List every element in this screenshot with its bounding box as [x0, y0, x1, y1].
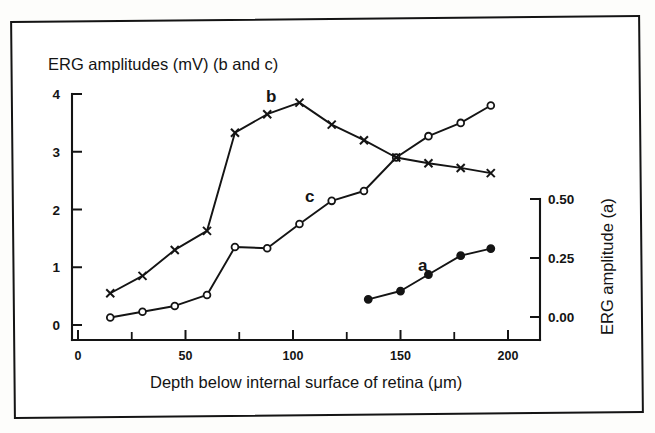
left-tick-label: 3	[52, 145, 60, 160]
data-point-c	[296, 221, 303, 228]
bottom-tick-label: 150	[390, 349, 411, 363]
data-point-b	[139, 272, 147, 280]
data-point-c	[264, 245, 271, 252]
right-axis-title: ERG amplitude (a)	[598, 198, 616, 335]
data-point-b	[106, 289, 114, 297]
data-point-c	[487, 102, 494, 109]
data-point-b	[171, 246, 179, 254]
chart-svg: ERG amplitudes (mV) (b and c) 01234 0.00…	[0, 0, 655, 433]
left-tick-label: 2	[52, 203, 60, 218]
series-line-b	[110, 103, 491, 294]
chart-plot-area: ERG amplitudes (mV) (b and c) 01234 0.00…	[0, 0, 655, 433]
data-point-c	[139, 308, 146, 315]
data-point-a	[397, 287, 404, 294]
data-point-c	[361, 188, 368, 195]
bottom-tick-label: 0	[75, 349, 82, 363]
bottom-tick-label: 50	[179, 349, 193, 363]
data-point-c	[425, 133, 432, 140]
data-point-b	[328, 121, 336, 129]
data-point-c	[107, 314, 114, 321]
left-tick-label: 4	[52, 87, 60, 102]
data-point-b	[360, 136, 368, 144]
x-axis-title: Depth below internal surface of retina (…	[150, 373, 462, 391]
left-tick-label: 1	[52, 260, 60, 275]
right-tick-label: 0.00	[548, 310, 574, 325]
left-axis-ticks: 01234	[52, 87, 82, 333]
right-tick-label: 0.50	[548, 192, 574, 207]
series-c	[107, 102, 494, 321]
data-point-c	[171, 303, 178, 310]
bottom-axis-ticks: 050100150200	[75, 330, 519, 363]
data-point-c	[204, 292, 211, 299]
right-axis-ticks: 0.000.250.50	[530, 192, 575, 325]
data-point-c	[328, 197, 335, 204]
data-point-a	[457, 252, 464, 259]
data-point-c	[232, 244, 239, 251]
data-point-a	[487, 245, 494, 252]
curve-label-b: b	[266, 87, 276, 106]
series-b	[106, 99, 495, 298]
left-axis-title: ERG amplitudes (mV) (b and c)	[48, 55, 278, 73]
data-point-c	[457, 119, 464, 126]
left-tick-label: 0	[52, 318, 60, 333]
series-line-c	[110, 106, 491, 318]
bottom-tick-label: 200	[498, 349, 519, 363]
curve-label-a: a	[418, 256, 428, 275]
figure-root: ERG amplitudes (mV) (b and c) 01234 0.00…	[0, 0, 655, 433]
series-a	[365, 245, 495, 303]
right-tick-label: 0.25	[548, 251, 575, 266]
curve-label-c: c	[305, 187, 314, 206]
bottom-tick-label: 100	[283, 349, 304, 363]
data-point-a	[365, 296, 372, 303]
